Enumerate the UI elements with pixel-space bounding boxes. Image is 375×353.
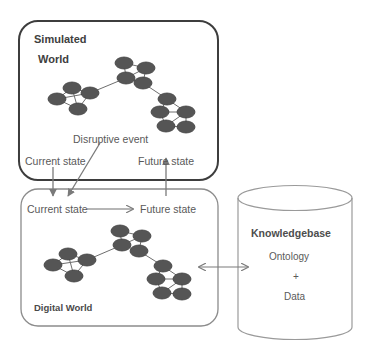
- digital-future-state-label: Future state: [140, 204, 196, 215]
- digital-world-title: Digital World: [34, 303, 92, 313]
- simulated-world-network: [48, 57, 195, 133]
- knowledgebase-plus-label: +: [293, 272, 299, 282]
- simulated-current-state-label: Current state: [25, 156, 86, 167]
- simulated-world-title-line2: World: [38, 54, 69, 65]
- simulated-future-state-label: Future state: [138, 156, 194, 167]
- knowledgebase-title: Knowledgebase: [251, 228, 331, 239]
- knowledgebase-data-label: Data: [284, 292, 305, 302]
- simulated-world-title-line1: Simulated: [34, 34, 87, 45]
- knowledgebase-ontology-label: Ontology: [269, 252, 309, 262]
- disruptive-event-label: Disruptive event: [73, 134, 148, 145]
- digital-current-state-label: Current state: [27, 204, 88, 215]
- diagram-canvas: Simulated World Disruptive event Current…: [0, 0, 375, 353]
- disruptive-event-arrow: [68, 143, 100, 196]
- digital-world-network: [44, 225, 191, 300]
- knowledgebase-cylinder: [238, 186, 352, 340]
